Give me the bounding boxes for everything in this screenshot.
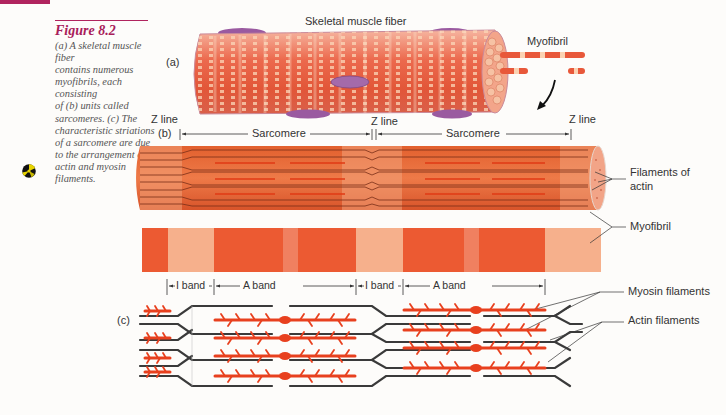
myofibril-cylinder <box>136 146 606 210</box>
myofibril-label-a: Myofibril <box>527 35 568 47</box>
filaments-of-actin-label: Filaments of <box>630 166 690 178</box>
sarcomere-label: Sarcomere <box>252 127 306 139</box>
panel-a-marker: (a) <box>166 56 179 68</box>
z-line-label: Z line <box>569 113 596 125</box>
myofibril-label-b: Myofibril <box>630 220 671 232</box>
actin-filaments-label: Actin filaments <box>628 314 700 326</box>
z-line-label: Z line <box>151 113 178 125</box>
sarcomere-label: Sarcomere <box>446 127 500 139</box>
band-strip <box>142 228 601 272</box>
muscle-diagram <box>0 0 726 415</box>
i-band-label: I band <box>176 279 205 291</box>
a-band-label: A band <box>433 279 466 291</box>
a-band-label: A band <box>243 279 276 291</box>
i-band-label: I band <box>365 279 394 291</box>
panel-c-marker: (c) <box>117 314 130 326</box>
sarcomere-filaments <box>140 304 582 386</box>
myosin-filaments-label: Myosin filaments <box>628 285 710 297</box>
z-line-label: Z line <box>371 115 398 127</box>
filaments-of-actin-label-2: actin <box>630 180 653 192</box>
panel-b-marker: (b) <box>158 127 171 139</box>
fiber-title: Skeletal muscle fiber <box>305 15 407 27</box>
